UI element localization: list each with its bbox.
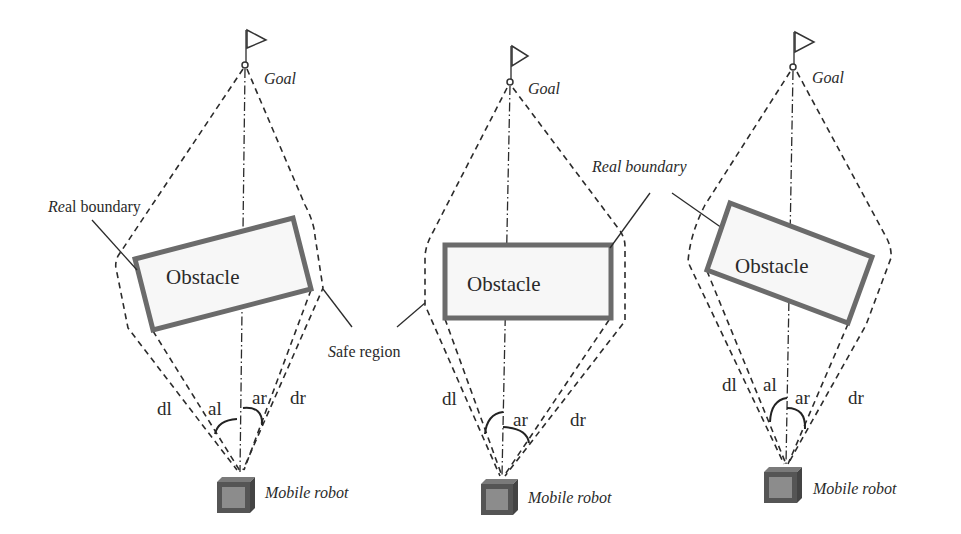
real-boundary-leader <box>92 220 137 270</box>
distance-dl-label: dl <box>722 374 737 395</box>
angle-ar-arc <box>243 408 262 425</box>
goal-label: Goal <box>812 69 845 86</box>
angle-al-arc <box>770 398 787 422</box>
safe-region-label: Safe region <box>328 343 400 361</box>
mobile-robot-icon <box>481 479 518 515</box>
obstacle-avoidance-diagram: Goal Obstacle Real boundary dl al ar dr … <box>0 0 961 534</box>
real-boundary-label: Real boundary <box>591 158 688 176</box>
angle-al-arc <box>485 412 503 434</box>
distance-dl-label: dl <box>157 398 172 419</box>
goal-flag-icon <box>790 32 814 70</box>
real-boundary-leader-panel-3 <box>672 193 722 228</box>
angle-al-label: al <box>208 398 222 419</box>
real-boundary-leader-panel-2 <box>610 193 650 248</box>
safe-region-leader-right <box>397 303 425 327</box>
panel-1: Goal Obstacle Real boundary dl al ar dr … <box>47 30 352 513</box>
obstacle-label: Obstacle <box>467 272 540 296</box>
real-boundary-label: Real boundary <box>47 198 141 216</box>
goal-flag-icon <box>507 46 528 85</box>
goal-label: Goal <box>528 80 561 97</box>
obstacle-label: Obstacle <box>735 254 808 278</box>
distance-dr-label: dr <box>290 387 307 408</box>
angle-al-arc <box>215 419 237 434</box>
distance-dr-label: dr <box>570 409 587 430</box>
right-real-path <box>244 290 311 470</box>
safe-region-leader-left <box>323 289 352 327</box>
angle-al-label: al <box>763 374 777 395</box>
robot-label: Mobile robot <box>264 484 349 501</box>
angle-ar-label: ar <box>252 387 267 408</box>
left-real-path <box>707 271 786 464</box>
obstacle-label: Obstacle <box>166 265 239 289</box>
panel-3: Goal Obstacle dl al ar dr Mobile robot <box>688 32 897 503</box>
panel-2: Goal Obstacle dl ar dr Mobile robot <box>425 46 625 515</box>
distance-dr-label: dr <box>848 387 865 408</box>
goal-label: Goal <box>264 70 297 87</box>
angle-ar-label: ar <box>513 409 528 430</box>
robot-label: Mobile robot <box>527 489 612 506</box>
distance-dl-label: dl <box>442 388 457 409</box>
mobile-robot-icon <box>217 477 255 513</box>
mobile-robot-icon <box>764 467 802 503</box>
angle-ar-arc <box>787 408 805 429</box>
right-real-path <box>504 320 609 476</box>
robot-label: Mobile robot <box>812 480 897 497</box>
angle-ar-label: ar <box>795 387 810 408</box>
goal-flag-icon <box>242 30 266 68</box>
